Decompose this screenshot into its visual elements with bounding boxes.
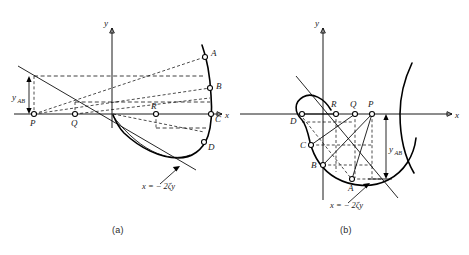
panel-a-label-D: D bbox=[207, 142, 215, 152]
panel-b-label-R: R bbox=[330, 99, 337, 109]
panel-a-label-B: B bbox=[216, 81, 222, 91]
panel-b-point-D bbox=[300, 112, 305, 117]
panel-a-zeta-line bbox=[18, 66, 196, 170]
panel-a-inner-arc bbox=[113, 116, 190, 157]
panel-a-dim-arrow-bottom bbox=[26, 108, 31, 114]
panel-a-yab-subscript: AB bbox=[17, 97, 26, 104]
panel-b-yab-base: y bbox=[388, 144, 393, 154]
panel-a-point-P bbox=[32, 112, 37, 117]
panel-b-dim-arrow-top bbox=[383, 114, 388, 120]
panel-a-label-P: P bbox=[29, 118, 36, 128]
figure-root: A B C D P Q R y x y AB x = − 2ζy bbox=[0, 0, 469, 255]
panel-b-point-C bbox=[309, 143, 314, 148]
panel-a-point-C bbox=[209, 112, 214, 117]
panel-b-right-branch bbox=[400, 63, 414, 173]
panel-b-yab-subscript: AB bbox=[394, 149, 403, 156]
panel-a-point-Q bbox=[73, 112, 78, 117]
panel-a-dimension-yab bbox=[26, 76, 31, 114]
panel-b-point-P bbox=[370, 112, 375, 117]
panel-a-locus-curve bbox=[113, 45, 212, 158]
panel-a-point-B bbox=[208, 86, 213, 91]
panel-b-zeta-line bbox=[296, 76, 398, 198]
panel-b-label-Q: Q bbox=[350, 99, 357, 109]
panel-b-y-axis-label: y bbox=[314, 18, 319, 28]
panel-b-label-D: D bbox=[289, 116, 297, 126]
panel-b-x-axis-label: x bbox=[454, 110, 459, 120]
diagram-canvas: A B C D P Q R y x y AB x = − 2ζy bbox=[0, 0, 469, 255]
panel-b-yab-label: y AB bbox=[388, 144, 402, 156]
panel-b-ray-Q-C bbox=[311, 114, 355, 145]
panel-b-point-Q bbox=[353, 112, 358, 117]
panel-a-x-axis-label: x bbox=[224, 110, 229, 120]
panel-b-axes bbox=[240, 28, 452, 200]
panel-a-label-Q: Q bbox=[71, 118, 78, 128]
panel-a-label-A: A bbox=[210, 48, 217, 58]
panel-b-point-B bbox=[321, 163, 326, 168]
panel-a-point-A bbox=[203, 55, 208, 60]
panel-b-label-C: C bbox=[300, 140, 307, 150]
panel-b: D C B A R Q P y x y AB x = − 2ζy bbox=[240, 18, 459, 210]
panel-a-yab-base: y bbox=[11, 92, 16, 102]
panel-a-axes bbox=[14, 28, 222, 128]
panel-a: A B C D P Q R y x y AB x = − 2ζy bbox=[11, 18, 229, 191]
panel-b-label-P: P bbox=[367, 99, 374, 109]
panel-b-caption: (b) bbox=[340, 225, 352, 235]
panel-a-label-R: R bbox=[150, 101, 157, 111]
panel-b-dim-arrow-bottom bbox=[383, 173, 388, 179]
panel-a-point-R bbox=[154, 112, 159, 117]
panel-a-y-axis-label: y bbox=[103, 18, 108, 28]
panel-a-dash-ray-P-A bbox=[34, 57, 205, 114]
panel-b-point-R bbox=[334, 112, 339, 117]
panel-a-equation-label: x = − 2ζy bbox=[141, 181, 175, 191]
panel-b-label-B: B bbox=[311, 160, 317, 170]
panel-b-equation-label: x = − 2ζy bbox=[329, 200, 363, 210]
panel-a-equation-arrowhead bbox=[173, 166, 180, 171]
panel-b-label-A: A bbox=[347, 183, 354, 193]
panel-a-dim-arrow-top bbox=[26, 76, 31, 82]
panel-b-point-A bbox=[350, 177, 355, 182]
panel-a-caption: (a) bbox=[112, 225, 124, 235]
panel-a-yab-label: y AB bbox=[11, 92, 25, 104]
panel-a-label-C: C bbox=[215, 114, 222, 124]
panel-a-point-D bbox=[202, 140, 207, 145]
